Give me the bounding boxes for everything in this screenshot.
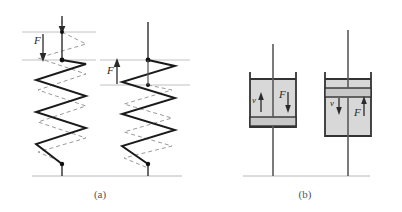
dashpot-left-assembly: v F	[250, 44, 296, 176]
spring-right-assembly: F	[106, 22, 175, 176]
panel-a-caption: (a)	[94, 188, 107, 201]
panel-b-caption: (b)	[299, 188, 312, 201]
spring-right-base-node	[146, 162, 150, 166]
dashpot-right-assembly: v F	[325, 30, 371, 176]
force-label-dashpot-left: F	[278, 88, 286, 100]
dashpot-right-piston-plate	[325, 88, 371, 97]
force-arrow-right-up	[114, 58, 121, 84]
spring-left-lower-node	[60, 58, 65, 63]
physics-figure: F	[0, 0, 402, 212]
spring-left-coil	[36, 60, 86, 164]
force-label-left: F	[33, 34, 41, 46]
dashpot-left-piston-plate	[250, 117, 296, 126]
force-label-dashpot-right: F	[353, 106, 361, 118]
figure-canvas: F	[0, 0, 402, 212]
spring-left-base-node	[60, 162, 64, 166]
velocity-label-left: v	[252, 95, 256, 105]
force-label-right: F	[106, 64, 114, 76]
force-arrow-right-head	[114, 58, 121, 67]
panel-b-dashpots: v F	[243, 30, 371, 201]
spring-left-assembly: F	[33, 16, 86, 176]
panel-a-springs: F	[22, 16, 190, 201]
spring-left-upper-node	[60, 30, 64, 34]
velocity-label-right: v	[330, 98, 334, 108]
